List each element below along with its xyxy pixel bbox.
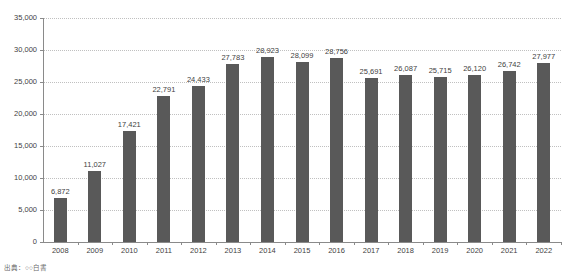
bar [54, 198, 67, 242]
bar-value-label: 27,783 [221, 54, 244, 62]
y-axis-line [43, 18, 44, 242]
x-axis-tick-mark [112, 242, 113, 245]
bar-value-label: 25,691 [360, 68, 383, 76]
y-axis-tick-label: 20,000 [14, 110, 37, 118]
x-axis-tick-mark [354, 242, 355, 245]
bar-chart: 05,00010,00015,00020,00025,00030,00035,0… [0, 0, 571, 274]
x-axis-tick-mark [492, 242, 493, 245]
x-axis-tick-label: 2018 [397, 246, 414, 255]
y-axis-tick-mark [40, 82, 44, 83]
x-axis-tick-mark [181, 242, 182, 245]
y-axis-tick-mark [40, 210, 44, 211]
bar [157, 96, 170, 242]
bar [434, 77, 447, 242]
bar-value-label: 28,923 [256, 47, 279, 55]
x-axis-tick-label: 2019 [432, 246, 449, 255]
bar-value-label: 26,742 [498, 61, 521, 69]
bar-value-label: 25,715 [429, 67, 452, 75]
bar [261, 57, 274, 242]
x-axis-tick-mark [216, 242, 217, 245]
y-axis-tick-mark [40, 178, 44, 179]
y-axis-tick-label: 25,000 [14, 78, 37, 86]
x-axis-tick-mark [457, 242, 458, 245]
x-axis-tick-label: 2022 [535, 246, 552, 255]
x-axis-tick-mark [423, 242, 424, 245]
bar-value-label: 6,872 [51, 188, 70, 196]
x-axis-tick-label: 2017 [363, 246, 380, 255]
y-axis-tick-mark [40, 146, 44, 147]
x-axis-tick-mark [561, 242, 562, 245]
chart-footnote: 出典：○○白書 [4, 264, 124, 272]
bar [88, 171, 101, 242]
bar [399, 75, 412, 242]
x-axis-tick-mark [388, 242, 389, 245]
x-axis-tick-mark [285, 242, 286, 245]
x-axis-tick-mark [526, 242, 527, 245]
y-axis-tick-mark [40, 50, 44, 51]
bar [330, 58, 343, 242]
bar [468, 75, 481, 242]
x-axis-tick-label: 2016 [328, 246, 345, 255]
x-axis-tick-mark [78, 242, 79, 245]
bar-value-label: 27,977 [532, 53, 555, 61]
y-axis-tick-label: 0 [33, 238, 37, 246]
y-axis-tick-label: 35,000 [14, 14, 37, 22]
bar [537, 63, 550, 242]
bar-value-label: 11,027 [84, 161, 106, 169]
y-axis-tick-label: 15,000 [14, 142, 37, 150]
x-axis-tick-label: 2012 [190, 246, 207, 255]
bar-value-label: 28,756 [325, 48, 348, 56]
x-axis-tick-label: 2011 [156, 246, 172, 255]
x-axis-tick-label: 2010 [121, 246, 138, 255]
x-axis-tick-label: 2009 [86, 246, 103, 255]
bar [123, 131, 136, 242]
y-axis-tick-label: 30,000 [14, 46, 37, 54]
x-axis-tick-label: 2015 [294, 246, 311, 255]
bar-value-label: 24,433 [187, 76, 210, 84]
bar-value-label: 28,099 [291, 52, 314, 60]
bar-value-label: 26,087 [394, 65, 417, 73]
y-axis-tick-label: 5,000 [18, 206, 37, 214]
y-axis-tick-mark [40, 18, 44, 19]
y-axis-tick-label: 10,000 [14, 174, 37, 182]
bar [192, 86, 205, 242]
bar [296, 62, 309, 242]
bar [226, 64, 239, 242]
bar-value-label: 17,421 [118, 121, 141, 129]
x-axis-tick-label: 2013 [225, 246, 242, 255]
x-axis-tick-label: 2008 [52, 246, 69, 255]
y-axis-tick-mark [40, 114, 44, 115]
bar [503, 71, 516, 242]
x-axis-tick-label: 2020 [466, 246, 483, 255]
x-axis-tick-mark [250, 242, 251, 245]
x-axis-tick-mark [147, 242, 148, 245]
gridline [43, 18, 561, 19]
x-axis-tick-label: 2014 [259, 246, 276, 255]
x-axis-tick-label: 2021 [501, 246, 518, 255]
x-axis-line [43, 242, 561, 243]
bar-value-label: 22,791 [152, 86, 175, 94]
bar [365, 78, 378, 242]
x-axis-tick-mark [319, 242, 320, 245]
bar-value-label: 26,120 [463, 65, 486, 73]
